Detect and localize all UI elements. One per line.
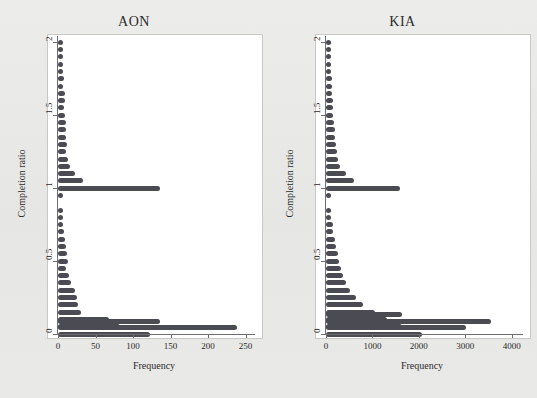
x-tick: [372, 334, 373, 338]
bar: [326, 319, 491, 324]
bar: [326, 302, 363, 307]
x-axis-title-aon: Frequency: [47, 360, 261, 371]
bar: [58, 135, 66, 140]
bar: [326, 120, 334, 125]
y-tick: [53, 188, 57, 189]
bar: [326, 105, 333, 110]
bar: [58, 120, 66, 125]
bar: [58, 149, 66, 154]
bar: [58, 288, 75, 293]
y-tick: [321, 115, 325, 116]
x-tick: [326, 334, 327, 338]
x-tick: [512, 334, 513, 338]
plot-area-kia: [326, 38, 521, 334]
bar: [58, 266, 66, 271]
x-tick-label: 1000: [363, 341, 381, 351]
bar: [326, 288, 350, 293]
x-tick-label: 2000: [410, 341, 428, 351]
x-tick: [246, 334, 247, 338]
bar: [326, 244, 336, 249]
bar: [58, 69, 63, 74]
bar: [58, 171, 75, 176]
bar: [326, 266, 341, 271]
bar: [58, 76, 64, 81]
bar: [326, 251, 338, 256]
bar: [58, 105, 64, 110]
bar: [58, 295, 77, 300]
y-tick: [321, 42, 325, 43]
bar: [326, 84, 332, 89]
panel-title-aon: AON: [0, 14, 268, 30]
bar: [58, 244, 66, 249]
bar: [58, 98, 65, 103]
bar: [58, 237, 65, 242]
bar: [326, 164, 340, 169]
x-tick-label: 0: [56, 341, 61, 351]
bar: [58, 208, 63, 213]
bar: [326, 76, 332, 81]
y-axis-title-kia: Completion ratio: [284, 129, 295, 239]
x-tick: [465, 334, 466, 338]
bar: [58, 259, 68, 264]
x-tick-label: 100: [126, 341, 140, 351]
bar: [58, 215, 63, 220]
bar: [326, 237, 335, 242]
bar: [58, 251, 67, 256]
x-tick-label: 3000: [456, 341, 474, 351]
x-tick: [58, 334, 59, 338]
bar: [326, 215, 331, 220]
bar: [58, 319, 160, 324]
bar: [326, 295, 356, 300]
y-axis-title-aon: Completion ratio: [16, 129, 27, 239]
bar: [58, 40, 63, 45]
x-axis-line-aon: [57, 334, 255, 335]
bar: [326, 91, 332, 96]
bar: [326, 171, 346, 176]
y-tick: [321, 188, 325, 189]
x-tick-label: 4000: [503, 341, 521, 351]
bar: [326, 47, 331, 52]
y-tick: [53, 261, 57, 262]
bar: [326, 40, 331, 45]
bar: [58, 222, 63, 227]
bar: [326, 208, 331, 213]
bar: [58, 164, 70, 169]
bar: [326, 259, 339, 264]
bar: [326, 135, 335, 140]
x-tick: [419, 334, 420, 338]
bar: [58, 310, 81, 315]
bar: [58, 47, 63, 52]
bar: [326, 142, 336, 147]
x-axis-line-kia: [325, 334, 523, 335]
x-tick-label: 250: [239, 341, 253, 351]
y-tick: [321, 334, 325, 335]
x-tick: [171, 334, 172, 338]
y-tick: [53, 334, 57, 335]
y-tick: [53, 42, 57, 43]
bar: [58, 62, 63, 67]
bar: [326, 229, 333, 234]
bar: [326, 186, 400, 191]
bar: [58, 229, 64, 234]
y-tick: [321, 261, 325, 262]
bar: [58, 127, 66, 132]
bar: [326, 193, 331, 198]
bar: [58, 302, 78, 307]
bar: [58, 178, 83, 183]
y-axis-line-kia: [325, 36, 326, 334]
bar: [326, 325, 466, 330]
bar: [326, 127, 335, 132]
bar: [58, 84, 63, 89]
x-tick: [96, 334, 97, 338]
bar: [326, 113, 333, 118]
x-tick: [133, 334, 134, 338]
bar: [58, 325, 237, 330]
x-tick-label: 150: [164, 341, 178, 351]
bar: [326, 69, 331, 74]
bar: [326, 62, 331, 67]
x-tick: [208, 334, 209, 338]
bar: [58, 280, 71, 285]
bar: [326, 273, 343, 278]
panel-title-kia: KIA: [268, 14, 537, 30]
bar: [326, 149, 337, 154]
